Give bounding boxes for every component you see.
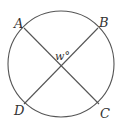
label-a: A [13, 16, 23, 31]
label-b: B [98, 15, 109, 30]
circle-diagram: A B C D w° [0, 0, 121, 125]
angle-label: w° [55, 50, 70, 63]
label-c: C [100, 106, 110, 121]
label-d: D [13, 103, 25, 118]
diagram: A B C D w° [0, 0, 121, 125]
